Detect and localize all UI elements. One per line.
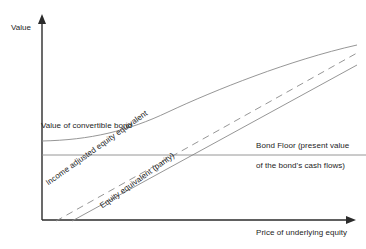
income-adjusted-equity-line [56, 53, 357, 221]
x-axis-label: Price of underlying equity [256, 228, 347, 238]
x-axis-arrow-icon [346, 216, 356, 224]
y-axis-arrow-icon [38, 14, 46, 24]
convertible-bond-value-chart: Value Price of underlying equity Value o… [0, 0, 366, 249]
y-axis-label: Value [11, 23, 31, 33]
bond-floor-annotation-line1: Bond Floor (present value [256, 141, 349, 151]
bond-floor-annotation-line2: of the bond's cash flows) [256, 161, 345, 171]
